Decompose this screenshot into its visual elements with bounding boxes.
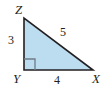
- vertex-label-y: Y: [13, 72, 20, 85]
- side-length-label-yx: 4: [54, 74, 60, 86]
- side-length-label-zy: 3: [8, 34, 14, 46]
- side-length-label-zx: 5: [60, 26, 66, 38]
- right-triangle-figure: Z Y X 3 4 5: [0, 0, 106, 91]
- vertex-label-z: Z: [15, 3, 22, 16]
- vertex-label-x: X: [92, 72, 100, 85]
